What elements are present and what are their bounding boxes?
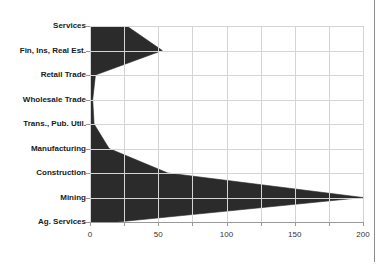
- panel-right-border: [374, 0, 375, 262]
- chart-container: 050100150200 ServicesFin, Ins, Real Est.…: [0, 0, 382, 274]
- x-tick-label: 50: [138, 229, 178, 240]
- gridline-horizontal: [90, 26, 363, 27]
- gridline-horizontal: [90, 124, 363, 125]
- x-tick-mark: [261, 222, 262, 226]
- category-label: Services: [53, 21, 86, 31]
- y-tick-mark: [86, 100, 90, 101]
- x-tick-mark: [227, 222, 228, 226]
- x-tick-label: 100: [207, 229, 247, 240]
- y-tick-mark: [86, 198, 90, 199]
- y-tick-mark: [86, 222, 90, 223]
- x-tick-label: 200: [343, 229, 382, 240]
- category-label: Trans., Pub. Util.: [23, 119, 86, 129]
- x-tick-mark: [158, 222, 159, 226]
- gridline-vertical: [363, 26, 364, 222]
- x-tick-mark: [295, 222, 296, 226]
- x-tick-mark: [363, 222, 364, 226]
- y-tick-mark: [86, 173, 90, 174]
- category-label: Construction: [36, 168, 86, 178]
- x-tick-mark: [124, 222, 125, 226]
- category-label: Fin, Ins, Real Est.: [20, 46, 86, 56]
- category-label: Ag. Services: [38, 217, 86, 227]
- x-tick-label: 0: [70, 229, 110, 240]
- category-label: Mining: [60, 193, 86, 203]
- y-tick-mark: [86, 75, 90, 76]
- y-tick-mark: [86, 51, 90, 52]
- y-tick-mark: [86, 124, 90, 125]
- category-label: Wholesale Trade: [23, 95, 86, 105]
- gridline-horizontal: [90, 100, 363, 101]
- y-tick-mark: [86, 149, 90, 150]
- category-label: Manufacturing: [31, 144, 86, 154]
- gridline-horizontal: [90, 75, 363, 76]
- y-tick-mark: [86, 26, 90, 27]
- gridline-horizontal: [90, 198, 363, 199]
- gridline-horizontal: [90, 149, 363, 150]
- category-label: Retail Trade: [41, 70, 86, 80]
- x-tick-label: 150: [275, 229, 315, 240]
- x-tick-mark: [90, 222, 91, 226]
- gridline-horizontal: [90, 51, 363, 52]
- gridline-horizontal: [90, 173, 363, 174]
- x-tick-mark: [192, 222, 193, 226]
- x-tick-mark: [329, 222, 330, 226]
